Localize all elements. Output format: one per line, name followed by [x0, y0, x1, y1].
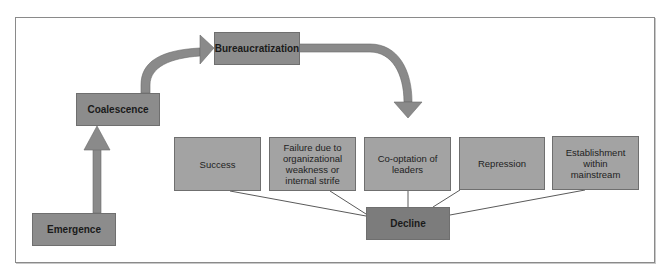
- outcome-label: Failure due to organizational weakness o…: [272, 142, 353, 186]
- arrow-bureaucratization-to-outcomes: [299, 44, 422, 118]
- outcome-repression: Repression: [459, 137, 545, 190]
- outcome-establishment: Establishment within mainstream: [552, 136, 639, 190]
- outcome-label: Co-optation of leaders: [377, 153, 438, 175]
- outcome-success: Success: [174, 137, 261, 191]
- outcome-label: Repression: [478, 158, 526, 169]
- outcome-label: Success: [200, 159, 236, 170]
- stage-bureaucratization: Bureaucratization: [214, 32, 300, 65]
- stage-label: Coalescence: [87, 104, 148, 115]
- stage-label: Emergence: [47, 224, 101, 235]
- line-repression-decline: [433, 190, 460, 207]
- outcome-label: Establishment within mainstream: [559, 147, 632, 180]
- outcome-cooptation: Co-optation of leaders: [364, 137, 451, 191]
- stage-emergence: Emergence: [32, 213, 116, 246]
- line-success-decline: [230, 191, 366, 216]
- stage-coalescence: Coalescence: [76, 93, 160, 126]
- stage-label: Bureaucratization: [215, 43, 299, 54]
- line-establishment-decline: [450, 190, 585, 215]
- arrow-emergence-to-coalescence: [84, 126, 110, 213]
- outcome-failure: Failure due to organizational weakness o…: [269, 137, 356, 191]
- stage-decline: Decline: [366, 207, 450, 240]
- stage-label: Decline: [390, 218, 426, 229]
- arrow-coalescence-to-bureaucratization: [141, 35, 214, 93]
